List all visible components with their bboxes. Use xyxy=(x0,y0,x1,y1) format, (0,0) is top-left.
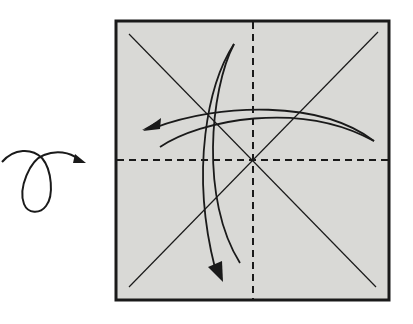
turn-over-icon xyxy=(2,151,86,212)
origami-diagram xyxy=(0,0,413,324)
